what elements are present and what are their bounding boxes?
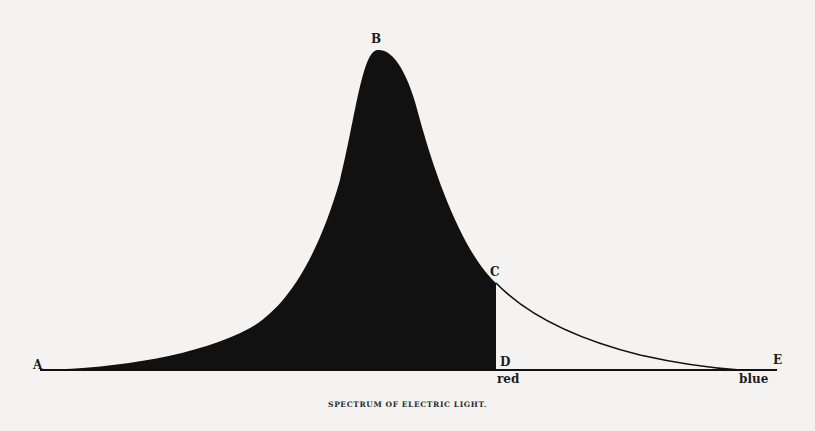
blue-end-label: blue (739, 373, 768, 385)
point-label-b: B (371, 33, 381, 45)
shaded-area (42, 50, 496, 370)
point-label-d: D (500, 356, 510, 368)
point-label-e: E (773, 354, 782, 366)
red-end-label: red (497, 373, 519, 385)
point-label-c: C (490, 266, 500, 278)
point-label-a: A (33, 359, 42, 371)
spectrum-figure: A B C D E red blue SPECTRUM OF ELECTRIC … (0, 0, 815, 431)
figure-caption: SPECTRUM OF ELECTRIC LIGHT. (0, 400, 815, 409)
visible-light-curve (496, 283, 740, 370)
spectrum-curve-plot (0, 0, 815, 431)
